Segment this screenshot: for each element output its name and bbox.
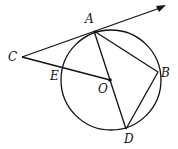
label-b: B [160, 66, 170, 80]
label-a: A [84, 12, 94, 26]
geometry-diagram: A B C D E O [0, 0, 178, 149]
arrowhead-icon [156, 5, 166, 12]
segment-bd [126, 72, 158, 129]
segment-co [22, 57, 110, 80]
segment-ab [94, 31, 158, 72]
label-o: O [98, 82, 108, 96]
label-e: E [49, 69, 59, 83]
center-dot [108, 78, 112, 82]
label-d: D [123, 132, 134, 146]
label-c: C [8, 50, 17, 64]
